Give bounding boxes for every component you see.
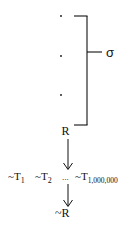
negation-t-million: ~T1,000,000 [75,170,118,185]
arrow-down-1 [64,139,73,170]
sigma-bracket [74,16,102,125]
negation-t1: ~T1 [8,170,25,185]
conclusion-label: ~R [55,206,70,220]
dot-2 [60,55,62,57]
diagram-canvas: σ R ~T1 ~T2 ... ~T1,000,000 ~R [0,0,137,227]
premise-label: R [62,124,70,138]
negations-row: ~T1 ~T2 ... ~T1,000,000 [8,170,118,185]
sequence-dots [60,15,62,96]
ellipsis: ... [62,172,69,182]
dot-3 [60,94,62,96]
negation-t2: ~T2 [35,170,52,185]
sigma-label: σ [106,45,114,60]
dot-1 [60,15,62,17]
arrow-down-2 [64,184,73,207]
